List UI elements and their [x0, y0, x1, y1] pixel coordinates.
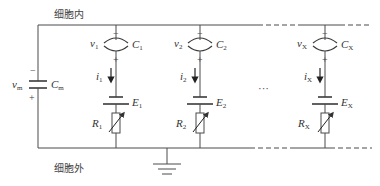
ground-icon: [153, 148, 181, 174]
minus-sign: −: [113, 28, 119, 39]
e2-label: E2: [215, 96, 227, 110]
membrane-circuit-diagram: 细胞内 细胞外 − + Cm vm − + v1 C1 i1: [0, 0, 380, 186]
v1-label: v1: [90, 37, 99, 51]
membrane-arc-bottom: [313, 46, 337, 51]
vx-label: vX: [297, 37, 307, 51]
membrane-arc-bottom: [188, 46, 212, 51]
cm-label: Cm: [51, 78, 64, 92]
ellipsis: ···: [258, 82, 269, 94]
plus-sign: +: [197, 54, 203, 65]
vm-label: vm: [12, 78, 23, 92]
intracellular-label: 细胞内: [54, 8, 84, 20]
membrane-capacitor-branch: − + Cm vm: [12, 25, 64, 148]
membrane-arc-bottom: [104, 46, 128, 51]
minus-sign: −: [197, 28, 203, 39]
e1-label: E1: [131, 96, 143, 110]
i2-label: i2: [180, 70, 187, 84]
extracellular-label: 细胞外: [54, 162, 84, 174]
channel-branch-1: − + v1 C1 i1 E1 R1: [90, 25, 143, 148]
rx-label: RX: [297, 117, 310, 131]
ex-label: EX: [340, 96, 353, 110]
cx-label: CX: [341, 38, 353, 52]
c2-label: C2: [216, 38, 227, 52]
r1-label: R1: [91, 117, 103, 131]
v2-label: v2: [174, 37, 183, 51]
plus-sign: +: [322, 54, 328, 65]
i1-label: i1: [96, 70, 103, 84]
cm-plus-sign: +: [29, 92, 35, 103]
channel-branch-2: − + v2 C2 i2 E2 R2: [174, 25, 227, 148]
cm-minus-sign: −: [30, 65, 36, 76]
c1-label: C1: [132, 38, 143, 52]
ix-label: iX: [304, 70, 312, 84]
r2-label: R2: [175, 117, 187, 131]
minus-sign: −: [322, 28, 328, 39]
plus-sign: +: [113, 54, 119, 65]
channel-branch-x: − + vX CX iX EX RX: [297, 25, 353, 148]
